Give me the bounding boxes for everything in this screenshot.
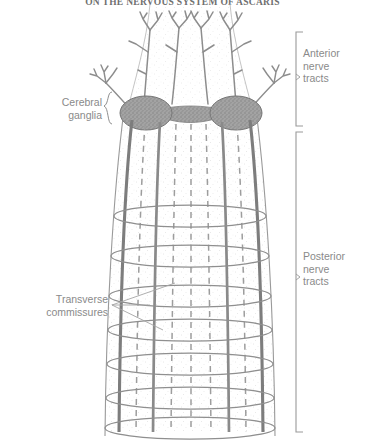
label-posterior-line2: nerve xyxy=(303,263,345,276)
label-anterior-line3: tracts xyxy=(303,72,340,85)
label-cerebral-ganglia: Cerebral ganglia xyxy=(28,96,102,121)
label-transverse-line2: commissures xyxy=(4,306,108,319)
posterior-bracket-tick xyxy=(296,274,300,280)
anterior-bracket-tick xyxy=(296,74,300,80)
region-brackets xyxy=(296,32,303,432)
posterior-bracket xyxy=(296,132,303,432)
label-transverse-commissures: Transverse commissures xyxy=(4,293,108,318)
label-cerebral-line2: ganglia xyxy=(28,109,102,122)
label-posterior-nerve-tracts: Posterior nerve tracts xyxy=(303,250,345,288)
label-anterior-line1: Anterior xyxy=(303,47,340,60)
label-cerebral-line1: Cerebral xyxy=(28,96,102,109)
label-anterior-line2: nerve xyxy=(303,60,340,73)
body-interior-texture xyxy=(105,112,275,432)
label-posterior-line3: tracts xyxy=(303,275,345,288)
label-posterior-line1: Posterior xyxy=(303,250,345,263)
label-anterior-nerve-tracts: Anterior nerve tracts xyxy=(303,47,340,85)
ganglion-right xyxy=(210,96,262,130)
cerebral-ganglia-brace xyxy=(104,92,112,124)
label-transverse-line1: Transverse xyxy=(4,293,108,306)
ganglion-left xyxy=(120,96,172,130)
